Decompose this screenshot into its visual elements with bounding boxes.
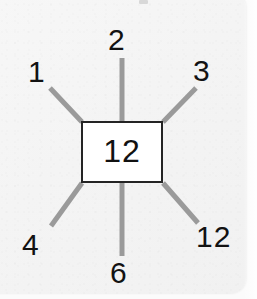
spoke-label-up-right: 3 <box>193 56 211 86</box>
screenshot-root: 12 1 2 3 4 6 12 <box>0 0 257 299</box>
center-number-value: 12 <box>103 135 141 167</box>
spoke-line-down-left <box>51 183 82 226</box>
center-number-box: 12 <box>81 121 163 183</box>
spoke-line-up-right <box>163 88 196 122</box>
spoke-label-down-left: 4 <box>22 230 40 260</box>
spoke-label-up: 2 <box>108 25 126 55</box>
spoke-label-down-right: 12 <box>196 222 231 252</box>
spoke-label-down: 6 <box>110 258 128 288</box>
spoke-line-down-right <box>163 183 198 223</box>
spoke-line-up-left <box>50 88 82 122</box>
spoke-label-up-left: 1 <box>28 57 46 87</box>
